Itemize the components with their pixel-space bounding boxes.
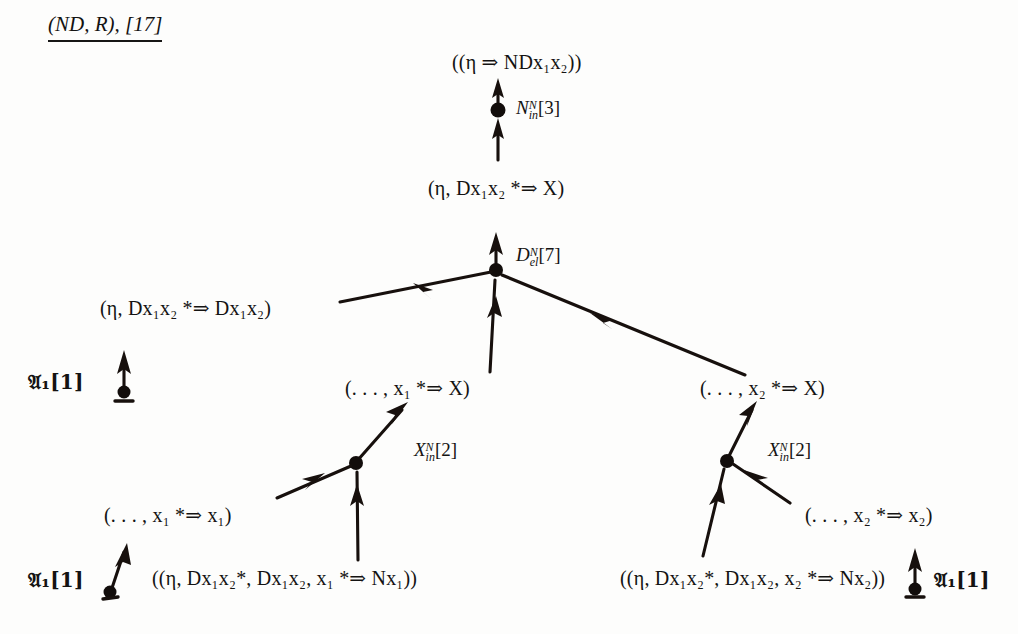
edge-leafright-to-xinright	[703, 469, 725, 556]
rule-label-axiom-top-left: 𝔄₁[1]	[28, 372, 84, 392]
edge-del-left-branch	[340, 272, 491, 302]
rule-index: [2]	[435, 439, 457, 460]
formula-root: ((η ⇒ NDx₁x₂))	[452, 52, 582, 72]
formula-level2: (η, Dx₁x₂ *⇒ X)	[428, 178, 564, 198]
edge-del-right-branch	[502, 275, 745, 375]
rule-index: [7]	[538, 244, 560, 265]
axiom-marker-bottom-left	[103, 543, 131, 599]
edge-midx1-to-del	[487, 280, 502, 372]
rule-index: [3]	[538, 97, 560, 118]
formula-leaf-right: ((η, Dx₁x₂*, Dx₁x₂, x₂ *⇒ Nx₂))	[620, 568, 885, 588]
formula-leaf-left: ((η, Dx₁x₂*, Dx₁x₂, x₁ *⇒ Nx₁))	[152, 568, 417, 588]
rule-base: X	[768, 439, 780, 460]
formula-mid-x2: (. . . , x₂ *⇒ X)	[700, 378, 825, 398]
rule-label-d-el: D N el [7]	[516, 245, 561, 268]
rule-subscript: in	[529, 109, 538, 121]
axiom-marker-top-left	[115, 350, 133, 401]
node-dot-del	[489, 263, 503, 277]
rule-label-x-in-left: X N in [2]	[414, 440, 457, 463]
node-dot-xin-right	[720, 454, 734, 468]
formula-left-axiom-seq: (η, Dx₁x₂ *⇒ Dx₁x₂)	[100, 298, 271, 318]
axiom-marker-bottom-right	[906, 548, 924, 597]
edge-nin-to-root	[492, 78, 504, 104]
rule-label-n-in: N N in [3]	[516, 98, 560, 121]
formula-leaf-x2-axiom: (. . . , x₂ *⇒ x₂)	[805, 505, 933, 525]
figure-title: (ND, R), [17]	[48, 12, 162, 42]
edge-level2-to-nin	[492, 118, 504, 160]
rule-label-axiom-bottom-left: 𝔄₁[1]	[28, 570, 84, 590]
node-dot-xin-left	[349, 456, 363, 470]
rule-base: N	[516, 97, 529, 118]
rule-label-axiom-bottom-right: 𝔄₁[1]	[934, 570, 990, 590]
edge-xinleft-to-midx1	[357, 402, 408, 461]
rule-base: D	[516, 244, 530, 265]
edge-xinright-to-midx2	[728, 401, 757, 458]
rule-index: [2]	[789, 439, 811, 460]
formula-leaf-x1-axiom: (. . . , x₁ *⇒ x₁)	[104, 505, 232, 525]
rule-subscript: in	[426, 451, 435, 463]
proof-tree-figure: (ND, R), [17]	[0, 0, 1018, 634]
rule-subscript: in	[780, 451, 789, 463]
edge-del-to-level2	[489, 232, 503, 265]
edge-leafx1ax-to-xinleft	[277, 466, 351, 498]
edge-leafleft-to-xinleft	[350, 472, 364, 560]
rule-base: X	[414, 439, 426, 460]
figure-title-text: (ND, R), [17]	[48, 12, 162, 36]
edge-xinright-right-branch	[733, 464, 790, 503]
formula-mid-x1: (. . . , x₁ *⇒ X)	[345, 378, 470, 398]
node-dot-nin	[491, 103, 506, 118]
rule-label-x-in-right: X N in [2]	[768, 440, 811, 463]
